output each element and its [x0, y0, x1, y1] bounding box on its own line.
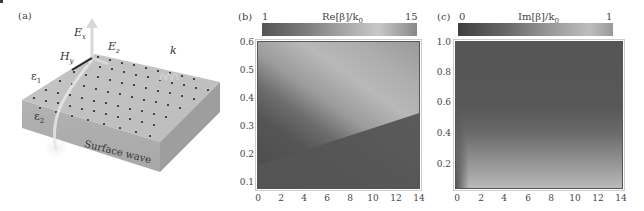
- colorbar-c-title-text: Im[β]/k: [518, 11, 554, 22]
- ytick-c: 0.8: [427, 67, 451, 77]
- ytick-b: 0.1: [230, 177, 254, 187]
- xtick-b: 8: [340, 193, 360, 203]
- ytick-c: 0.4: [427, 128, 451, 138]
- label-eps1: ε1: [31, 70, 41, 85]
- xtick-c: 10: [565, 193, 585, 203]
- colorbar-c-min: 0: [459, 11, 465, 22]
- ex-subscript: x: [82, 33, 86, 41]
- ex-symbol: E: [74, 26, 82, 39]
- xtick-c: 6: [518, 193, 538, 203]
- label-ex: Ex: [74, 26, 86, 41]
- panel-b-label: (b): [238, 11, 252, 22]
- label-hy: Hy: [60, 50, 74, 65]
- ytick-b: 0.2: [230, 149, 254, 159]
- ytick-b: 0.4: [230, 93, 254, 103]
- ez-subscript: z: [116, 47, 120, 55]
- ytick-b: 0.6: [230, 37, 254, 47]
- ytick-c: 0.2: [427, 159, 451, 169]
- xtick-b: 14: [409, 193, 429, 203]
- colorbar-b-max: 15: [405, 11, 418, 22]
- panel-c-label: (c): [437, 11, 450, 22]
- ytick-c: 0.6: [427, 97, 451, 107]
- hy-symbol: H: [60, 50, 70, 63]
- ytick-b: 0.5: [230, 65, 254, 75]
- xtick-b: 10: [363, 193, 383, 203]
- xtick-b: 2: [271, 193, 291, 203]
- label-k: k: [170, 44, 177, 57]
- heatmap-re-beta: [257, 41, 420, 189]
- colorbar-b-min: 1: [262, 11, 268, 22]
- colorbar-b-title-text: Re[β]/k: [322, 11, 358, 22]
- graphene-surface-illustration: [0, 0, 225, 211]
- label-eps2: ε2: [34, 110, 44, 125]
- xtick-b: 6: [317, 193, 337, 203]
- ez-symbol: E: [108, 40, 116, 53]
- colorbar-c-max: 1: [606, 11, 612, 22]
- xtick-c: 4: [494, 193, 514, 203]
- xtick-c: 2: [471, 193, 491, 203]
- xtick-b: 4: [294, 193, 314, 203]
- xtick-b: 0: [248, 193, 268, 203]
- colorbar-b: [262, 23, 417, 36]
- xtick-c: 12: [588, 193, 608, 203]
- ytick-b: 0.3: [230, 121, 254, 131]
- eps1-subscript: 1: [37, 77, 41, 85]
- lattice-atoms: [0, 0, 3, 3]
- hy-subscript: y: [70, 57, 74, 65]
- xtick-c: 0: [447, 193, 467, 203]
- xtick-c: 14: [611, 193, 631, 203]
- label-ez: Ez: [108, 40, 120, 55]
- ytick-c: 1.0: [427, 37, 451, 47]
- colorbar-c: [458, 23, 613, 36]
- xtick-c: 8: [541, 193, 561, 203]
- xtick-b: 12: [386, 193, 406, 203]
- heatmap-im-beta: [455, 41, 623, 189]
- eps2-subscript: 2: [40, 117, 44, 125]
